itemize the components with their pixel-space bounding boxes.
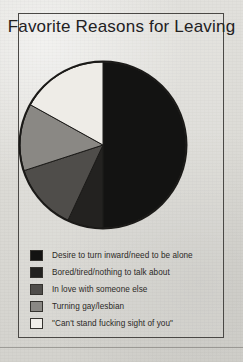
pie-chart-svg xyxy=(0,40,206,235)
legend-swatch-icon-bored-tired xyxy=(30,267,43,278)
legend-swatch-icon-in-love-someone-else xyxy=(30,284,43,295)
legend-swatch-icon-desire-turn-inward xyxy=(30,250,43,261)
legend-item-cant-stand-sight[interactable]: "Can't stand fucking sight of you" xyxy=(30,316,206,331)
bottom-divider xyxy=(0,347,243,348)
legend-item-bored-tired[interactable]: Bored/tired/nothing to talk about xyxy=(30,265,206,280)
pie-slice-group xyxy=(20,62,186,228)
legend-swatch-icon-turning-gay-lesbian xyxy=(30,301,43,312)
chart-legend: Desire to turn inward/need to be alone B… xyxy=(30,248,206,333)
legend-label-cant-stand-sight: "Can't stand fucking sight of you" xyxy=(52,319,173,328)
legend-swatch-icon-cant-stand-sight xyxy=(30,318,43,329)
legend-item-turning-gay-lesbian[interactable]: Turning gay/lesbian xyxy=(30,299,206,314)
legend-item-in-love-someone-else[interactable]: In love with someone else xyxy=(30,282,206,297)
legend-label-in-love-someone-else: In love with someone else xyxy=(52,285,147,294)
page-background: Favorite Reasons for Leaving Desire to t… xyxy=(0,0,243,362)
pie-chart xyxy=(0,40,206,235)
legend-label-desire-turn-inward: Desire to turn inward/need to be alone xyxy=(52,251,193,260)
legend-label-bored-tired: Bored/tired/nothing to talk about xyxy=(52,268,170,277)
pie-slice[interactable] xyxy=(103,62,186,228)
page-title: Favorite Reasons for Leaving xyxy=(0,17,243,37)
legend-item-desire-turn-inward[interactable]: Desire to turn inward/need to be alone xyxy=(30,248,206,263)
legend-label-turning-gay-lesbian: Turning gay/lesbian xyxy=(52,302,124,311)
